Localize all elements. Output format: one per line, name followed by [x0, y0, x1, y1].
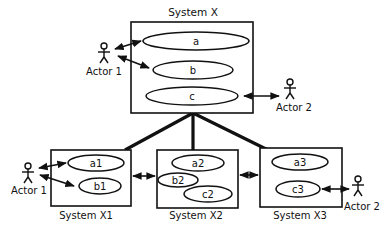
- system-x3-title: System X3: [273, 210, 327, 221]
- system-x-title: System X: [168, 6, 218, 18]
- connector-x-to-x3: [193, 113, 268, 150]
- actor-1-label: Actor 1: [11, 185, 47, 196]
- use-case-a2-label: a2: [192, 158, 205, 169]
- actor-icon: [352, 176, 364, 196]
- use-case-a3-label: a3: [294, 157, 307, 168]
- use-case-a1-label: a1: [90, 158, 103, 169]
- use-case-c-label: c: [189, 91, 195, 102]
- use-case-c3-label: c3: [292, 184, 304, 195]
- use-case-b2-label: b2: [172, 175, 185, 186]
- actor-2-label: Actor 2: [344, 201, 380, 212]
- diagram-canvas: System X a b c Actor 1 Actor 2: [0, 0, 391, 230]
- use-case-b1-label: b1: [94, 181, 107, 192]
- actor-2-bottom[interactable]: Actor 2: [344, 176, 380, 212]
- system-x1-title: System X1: [59, 210, 113, 221]
- system-x1: a1 b1 System X1: [51, 150, 131, 221]
- system-x2: a2 b2 c2 System X2: [157, 150, 238, 221]
- actor-icon: [22, 163, 34, 183]
- system-x3: a3 c3 System X3: [260, 148, 342, 221]
- decomposition-connectors: [125, 113, 268, 150]
- system-x: System X a b c: [131, 6, 253, 113]
- connector-x-to-x1: [125, 113, 193, 150]
- actor-1-label: Actor 1: [86, 66, 122, 77]
- system-x2-title: System X2: [169, 210, 223, 221]
- actor-icon: [98, 43, 110, 63]
- use-case-a-label: a: [193, 36, 199, 47]
- use-case-c2-label: c2: [202, 189, 214, 200]
- use-case-b-label: b: [190, 65, 196, 76]
- actor-2-top[interactable]: Actor 2: [276, 79, 312, 113]
- actor-icon: [284, 79, 296, 99]
- actor-2-label: Actor 2: [276, 102, 312, 113]
